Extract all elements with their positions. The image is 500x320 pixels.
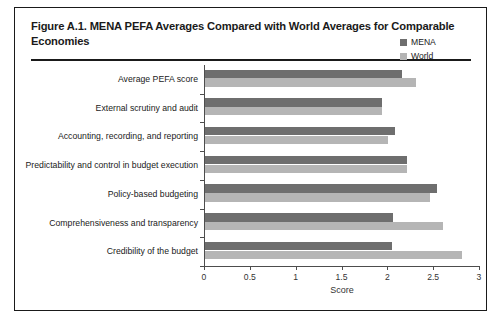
category-label: Accounting, recording, and reporting (58, 131, 198, 141)
bar-world (205, 78, 416, 86)
bar-row: Credibility of the budget (15, 237, 488, 266)
legend-swatch-icon (400, 39, 407, 46)
bar-mena (205, 156, 407, 164)
bar-mena (205, 98, 382, 106)
bar-world (205, 136, 388, 144)
x-tick-mark (433, 266, 434, 270)
x-tick-mark (250, 266, 251, 270)
x-tick-label: 1.5 (336, 272, 348, 282)
bar-row: Average PEFA score (15, 65, 488, 94)
bar-world (205, 107, 382, 115)
bar-row: Policy-based budgeting (15, 180, 488, 209)
bar-mena (205, 213, 393, 221)
category-label: Average PEFA score (118, 74, 198, 84)
x-tick-label: 2 (385, 272, 390, 282)
category-label: External scrutiny and audit (96, 103, 198, 113)
figure-frame: Figure A.1. MENA PEFA Averages Compared … (14, 7, 487, 311)
legend-swatch-icon (400, 53, 407, 60)
bar-mena (205, 127, 395, 135)
bar-world (205, 193, 430, 201)
legend-label: World (411, 51, 433, 61)
bar-row: Accounting, recording, and reporting (15, 122, 488, 151)
bar-row: Comprehensiveness and transparency (15, 209, 488, 238)
x-tick-mark (204, 266, 205, 270)
bar-row: Predictability and control in budget exe… (15, 151, 488, 180)
x-tick-label: 1 (293, 272, 298, 282)
bar-row: External scrutiny and audit (15, 94, 488, 123)
x-tick-mark (479, 266, 480, 270)
x-tick-label: 0 (202, 272, 207, 282)
legend-entry: MENA (400, 37, 436, 47)
x-tick-mark (387, 266, 388, 270)
category-label: Credibility of the budget (107, 246, 198, 256)
bar-mena (205, 70, 402, 78)
category-label: Comprehensiveness and transparency (49, 218, 198, 228)
x-tick-label: 2.5 (427, 272, 439, 282)
bar-world (205, 222, 443, 230)
bar-world (205, 251, 462, 259)
legend-entry: World (400, 51, 436, 61)
legend-label: MENA (411, 37, 436, 47)
y-tick-mark (200, 266, 204, 267)
x-tick-mark (296, 266, 297, 270)
figure-title: Figure A.1. MENA PEFA Averages Compared … (31, 19, 461, 49)
x-tick-label: 0.5 (244, 272, 256, 282)
x-tick-mark (342, 266, 343, 270)
bar-world (205, 165, 407, 173)
chart-legend: MENAWorld (400, 37, 436, 65)
x-axis-title: Score (204, 285, 480, 295)
category-label: Policy-based budgeting (108, 189, 198, 199)
x-tick-label: 3 (477, 272, 482, 282)
category-label: Predictability and control in budget exe… (26, 160, 198, 170)
bar-mena (205, 184, 437, 192)
bar-mena (205, 242, 392, 250)
